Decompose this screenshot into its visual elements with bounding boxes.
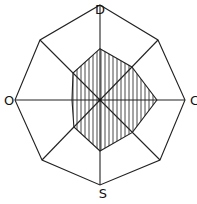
center-point <box>98 98 101 101</box>
axis-label-top: D <box>95 2 105 17</box>
axis-label-right: C <box>190 93 197 108</box>
radar-diagram: D C S O <box>0 0 197 204</box>
axis-label-bottom: S <box>99 186 107 201</box>
axis-label-left: O <box>4 93 14 108</box>
